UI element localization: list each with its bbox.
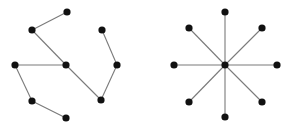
edge-center-se [225,65,262,102]
node-se [258,98,265,105]
edge-h-g [102,30,117,65]
node-w [170,61,177,68]
node-f [62,114,69,121]
edge-center-ne [225,28,262,65]
node-a [63,8,70,15]
edge-d-e [15,65,32,101]
star-graph [170,8,280,120]
node-n [221,8,228,15]
edge-c-i [66,65,101,100]
node-center [221,61,228,68]
node-ne [258,24,265,31]
node-c [62,61,69,68]
node-b [28,26,35,33]
node-nw [185,24,192,31]
edge-center-nw [189,28,225,65]
node-d [11,61,18,68]
node-e [28,97,35,104]
tree-graph [11,8,120,121]
node-g [98,26,105,33]
edge-i-h [101,65,117,100]
edge-a-b [32,12,67,30]
node-e [273,61,280,68]
edge-b-c [32,30,66,65]
node-sw [185,98,192,105]
node-s [221,113,228,120]
node-h [113,61,120,68]
graph-diagram [0,0,297,128]
edge-e-f [32,101,66,118]
edge-center-sw [189,65,225,102]
node-i [97,96,104,103]
diagram-canvas [0,0,297,128]
